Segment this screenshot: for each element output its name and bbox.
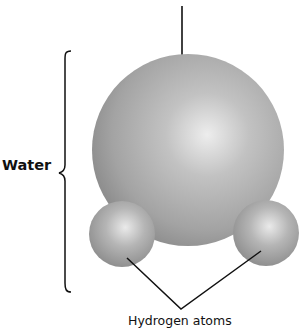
water-brace [59,51,71,292]
hydrogen-atom-left [89,201,155,267]
water-label: Water [2,157,51,173]
hydrogen-leader-lines [127,251,261,309]
hydrogen-atoms-label: Hydrogen atoms [128,313,232,328]
hydrogen-atom-right [233,200,299,266]
